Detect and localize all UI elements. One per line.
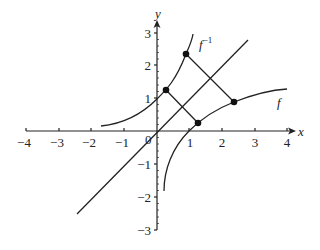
svg-text:−3: −3 [137, 223, 151, 238]
curve-f-inverse [101, 34, 193, 126]
point-f-1 [195, 120, 202, 127]
svg-text:1: 1 [187, 135, 194, 150]
point-f-2 [231, 99, 238, 106]
x-axis [26, 128, 290, 131]
svg-text:1: 1 [145, 91, 152, 106]
svg-text:−1: −1 [137, 157, 151, 172]
function-inverse-diagram: −4 −3 −2 −1 1 2 3 4 0 3 2 1 −1 −2 −3 x y… [0, 0, 320, 250]
svg-text:−1: −1 [115, 135, 129, 150]
svg-text:2: 2 [145, 58, 152, 73]
label-f: f [277, 95, 283, 110]
svg-text:−4: −4 [17, 135, 31, 150]
point-f-inverse-2 [183, 51, 190, 58]
svg-text:3: 3 [252, 135, 259, 150]
label-f-inverse-sup: −1 [203, 35, 213, 45]
y-axis-label: y [153, 6, 161, 21]
x-tick-labels: −4 −3 −2 −1 1 2 3 4 [17, 135, 291, 150]
point-f-inverse-1 [163, 87, 170, 94]
line-y-equals-x [77, 40, 248, 214]
svg-text:4: 4 [284, 135, 291, 150]
y-axis [154, 26, 157, 230]
curve-f [164, 89, 287, 191]
label-f-inverse: f−1 [199, 35, 212, 52]
svg-text:−2: −2 [82, 135, 96, 150]
svg-text:3: 3 [145, 26, 152, 41]
svg-text:2: 2 [219, 135, 226, 150]
svg-text:−3: −3 [50, 135, 64, 150]
x-axis-label: x [297, 124, 304, 139]
svg-text:−2: −2 [137, 190, 151, 205]
